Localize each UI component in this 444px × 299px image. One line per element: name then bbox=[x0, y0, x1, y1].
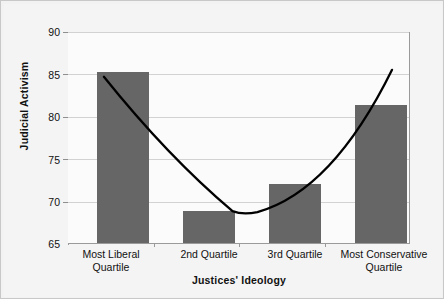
x-tick-label-most-liberal-quartile: Most Liberal Quartile bbox=[60, 248, 162, 274]
y-tick-label: 70 bbox=[4, 196, 60, 208]
x-tick-line-1: Most Liberal bbox=[60, 248, 162, 261]
x-tick-label-most-conservative-quartile: Most Conservative Quartile bbox=[324, 248, 444, 274]
x-axis-separator bbox=[239, 243, 240, 247]
x-axis-separator bbox=[154, 243, 155, 247]
y-tick-label: 90 bbox=[4, 26, 60, 38]
x-tick-line-2: Quartile bbox=[60, 261, 162, 274]
y-axis-tick-labels: 90 85 80 75 70 65 bbox=[4, 32, 68, 245]
plot-area bbox=[68, 32, 410, 244]
y-tick-label: 65 bbox=[4, 238, 60, 250]
trend-curve bbox=[68, 32, 409, 243]
chart-canvas: 90 85 80 75 70 65 Judicial Activism bbox=[4, 4, 442, 297]
x-tick-line-2: Quartile bbox=[324, 261, 444, 274]
x-axis-separator bbox=[325, 243, 326, 247]
y-axis-title: Judicial Activism bbox=[18, 16, 30, 196]
y-tick-label: 75 bbox=[4, 154, 60, 166]
chart-figure: 90 85 80 75 70 65 Judicial Activism bbox=[0, 0, 444, 299]
y-tick-label: 85 bbox=[4, 69, 60, 81]
x-axis-title: Justices' Ideology bbox=[68, 274, 410, 286]
x-tick-line-1: Most Conservative bbox=[324, 248, 444, 261]
y-tick-label: 80 bbox=[4, 111, 60, 123]
